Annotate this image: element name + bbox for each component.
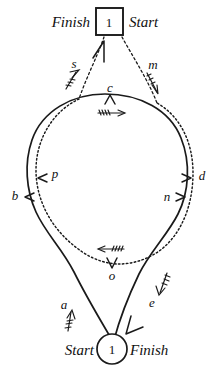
feather-arrow-e xyxy=(156,273,170,295)
feather-arrow-c xyxy=(98,110,125,116)
label-o: o xyxy=(109,268,116,283)
feather-arrow-o xyxy=(98,246,124,252)
feather-arrow-a xyxy=(65,310,75,331)
label-c: c xyxy=(107,80,113,95)
marker-c: c xyxy=(98,80,125,116)
label-finish-bottom: Finish xyxy=(129,342,168,358)
label-start-bottom: Start xyxy=(65,342,95,358)
node-top[interactable]: 1 xyxy=(96,8,123,35)
arrowhead-b xyxy=(25,193,34,201)
marker-p: p xyxy=(38,166,59,182)
dotted-loop-body xyxy=(36,99,193,264)
arrowhead-c xyxy=(105,95,115,104)
label-b: b xyxy=(12,188,19,203)
label-finish-top: Finish xyxy=(51,14,90,30)
label-start-top: Start xyxy=(129,14,159,30)
label-n: n xyxy=(164,189,171,204)
marker-m: m xyxy=(147,57,158,94)
node-top-number: 1 xyxy=(106,15,113,30)
marker-n: n xyxy=(164,189,185,204)
marker-d: d xyxy=(182,168,206,183)
label-d: d xyxy=(199,168,206,183)
label-m: m xyxy=(148,57,157,72)
label-a: a xyxy=(61,297,68,312)
label-p: p xyxy=(51,166,59,181)
label-s: s xyxy=(71,56,76,71)
node-bottom-number: 1 xyxy=(109,342,116,357)
solid-loop-body xyxy=(27,94,187,340)
marker-e: e xyxy=(126,273,170,334)
diagram-canvas: 1 Finish Start 1 Start Finish s m xyxy=(0,0,218,367)
node-bottom[interactable]: 1 xyxy=(97,334,127,364)
arrowhead-p xyxy=(38,174,47,182)
label-e: e xyxy=(149,295,155,310)
feather-arrow-s xyxy=(66,70,79,89)
arrowhead-e-large xyxy=(126,316,143,334)
marker-a: a xyxy=(61,297,75,331)
solid-loop-path xyxy=(27,94,187,340)
dotted-loop-path xyxy=(36,37,193,264)
